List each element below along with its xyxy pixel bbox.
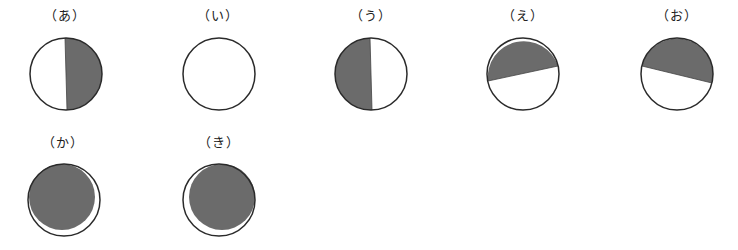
circle-u-icon bbox=[333, 36, 409, 112]
circle-ka-icon bbox=[26, 162, 102, 238]
circle-ki-icon bbox=[181, 162, 257, 238]
figure-o-label: （お） bbox=[627, 6, 727, 26]
figure-ki-label: （き） bbox=[169, 133, 269, 153]
circle-e-icon bbox=[485, 36, 561, 112]
figure-e-label: （え） bbox=[473, 6, 573, 26]
circle-i-icon bbox=[181, 36, 257, 112]
circle-o-icon bbox=[639, 36, 715, 112]
figure-i-label: （い） bbox=[168, 6, 268, 26]
circle-a-icon bbox=[28, 36, 104, 112]
figure-a-label: （あ） bbox=[15, 6, 115, 26]
figure-u-label: （う） bbox=[321, 6, 421, 26]
figure-ka-label: （か） bbox=[13, 133, 113, 153]
